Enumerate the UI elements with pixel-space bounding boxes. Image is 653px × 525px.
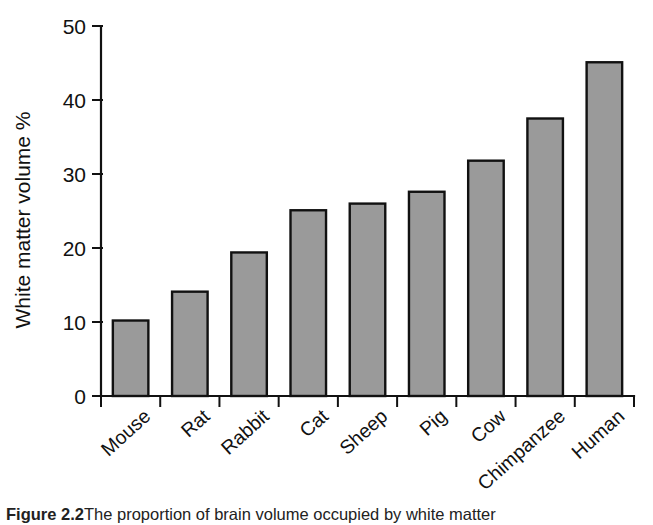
x-tick-label-rat: Rat [177, 404, 215, 441]
bar-cat [291, 210, 327, 396]
bar-rat [172, 292, 208, 396]
y-tick-label-10: 10 [63, 311, 86, 334]
x-tick-label-pig: Pig [415, 405, 451, 440]
bar-sheep [350, 204, 386, 396]
y-tick-label-40: 40 [63, 89, 86, 112]
bar-rabbit [231, 252, 267, 396]
bar-mouse [113, 321, 149, 396]
x-tick-label-cow: Cow [466, 404, 510, 447]
y-axis-title: White matter volume % [11, 111, 34, 328]
bars-layer [113, 62, 622, 396]
x-tick-labels: MouseRatRabbitCatSheepPigCowChimpanzeeHu… [96, 404, 628, 494]
y-tick-label-20: 20 [63, 237, 86, 260]
y-tick-labels: 0 10 20 30 40 50 [63, 15, 86, 408]
bar-cow [468, 161, 504, 396]
y-tick-label-0: 0 [74, 385, 86, 408]
x-tick-label-sheep: Sheep [335, 405, 392, 459]
figure-caption-body: The proportion of brain volume occupied … [84, 505, 496, 523]
x-tick-label-rabbit: Rabbit [216, 404, 273, 458]
figure-caption-number: Figure 2.2 [6, 505, 84, 523]
y-tick-label-50: 50 [63, 15, 86, 38]
bar-human [587, 62, 623, 396]
x-tick-label-cat: Cat [295, 404, 333, 441]
x-tick-label-mouse: Mouse [96, 405, 154, 461]
bar-pig [409, 192, 445, 396]
x-tick-label-human: Human [567, 405, 628, 463]
bar-chimpanzee [527, 119, 563, 397]
figure-caption: Figure 2.2The proportion of brain volume… [6, 503, 651, 525]
y-tick-label-30: 30 [63, 163, 86, 186]
